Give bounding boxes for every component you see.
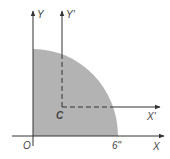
origin-label: O (23, 140, 31, 151)
centroid-label: C (56, 110, 64, 121)
x-axis-label: X (152, 141, 160, 152)
y-axis-label: Y (37, 9, 45, 20)
x-prime-label: X' (146, 111, 157, 122)
radius-label: 6" (112, 140, 122, 151)
quarter-circle-area (33, 49, 118, 136)
quarter-circle-diagram: Y Y' C X' O 6" X (0, 0, 170, 159)
y-prime-label: Y' (66, 9, 76, 20)
